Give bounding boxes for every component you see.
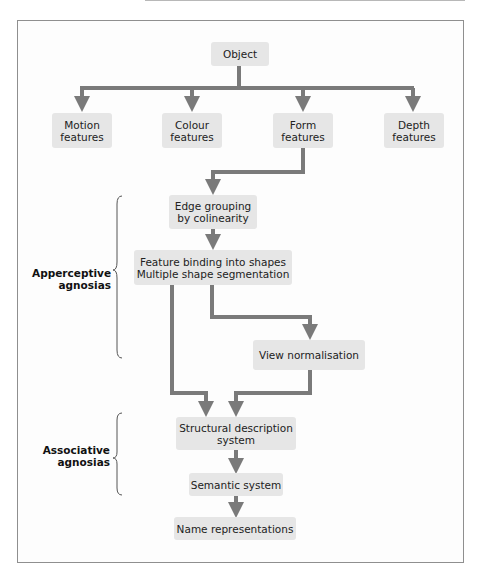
node-label: Edge grouping xyxy=(175,200,252,212)
node-label: Object xyxy=(223,48,257,60)
node-label: Motion xyxy=(64,119,100,131)
node-motion-features: Motion features xyxy=(52,113,112,148)
node-label: View normalisation xyxy=(259,349,359,361)
node-label: Feature binding into shapes xyxy=(140,256,286,268)
node-view-normalisation: View normalisation xyxy=(253,340,365,370)
node-name-representations: Name representations xyxy=(174,517,296,540)
group-label-line: agnosias xyxy=(32,279,111,291)
node-object: Object xyxy=(211,42,269,66)
node-edge-grouping: Edge grouping by colinearity xyxy=(169,195,257,229)
group-label-line: Apperceptive xyxy=(32,267,111,279)
node-label: by colinearity xyxy=(177,212,248,224)
node-label: Colour xyxy=(175,119,209,131)
node-colour-features: Colour features xyxy=(162,113,222,148)
node-label: Depth xyxy=(398,119,430,131)
node-label: features xyxy=(392,131,435,143)
group-label-line: agnosias xyxy=(43,456,110,468)
node-semantic-system: Semantic system xyxy=(189,473,283,496)
node-depth-features: Depth features xyxy=(384,113,444,148)
node-form-features: Form features xyxy=(273,113,333,148)
brace-icon xyxy=(113,196,122,495)
node-label: system xyxy=(217,434,255,446)
node-label: features xyxy=(170,131,213,143)
group-label-associative: Associative agnosias xyxy=(43,444,110,468)
group-label-line: Associative xyxy=(43,444,110,456)
node-label: features xyxy=(60,131,103,143)
node-feature-binding: Feature binding into shapes Multiple sha… xyxy=(134,250,292,285)
node-label: Form xyxy=(290,119,316,131)
node-label: Multiple shape segmentation xyxy=(137,268,290,280)
node-structural-description: Structural description system xyxy=(176,417,296,450)
node-label: Semantic system xyxy=(191,479,282,491)
node-label: Name representations xyxy=(177,523,294,535)
group-label-apperceptive: Apperceptive agnosias xyxy=(32,267,111,291)
node-label: features xyxy=(281,131,324,143)
node-label: Structural description xyxy=(179,422,293,434)
